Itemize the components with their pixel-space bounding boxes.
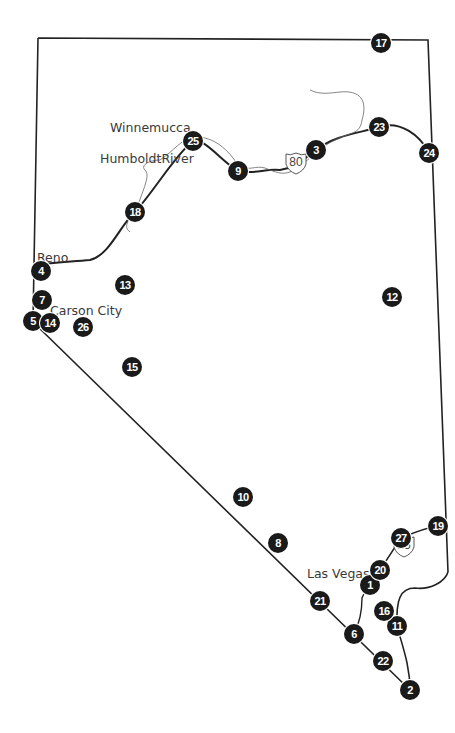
map-marker-19[interactable]: 19 (428, 516, 448, 536)
map-marker-13[interactable]: 13 (115, 275, 135, 295)
map-marker-23[interactable]: 23 (369, 117, 389, 137)
map-marker-12[interactable]: 12 (382, 287, 402, 307)
map-marker-27[interactable]: 27 (391, 528, 411, 548)
label-humboldt-river: HumboldtRiver (100, 151, 194, 166)
map-marker-2[interactable]: 2 (400, 680, 420, 700)
interstate-80-road (33, 125, 429, 266)
map-marker-22[interactable]: 22 (373, 651, 393, 671)
map-marker-20[interactable]: 20 (370, 560, 390, 580)
map-marker-26[interactable]: 26 (73, 317, 93, 337)
map-marker-10[interactable]: 10 (233, 487, 253, 507)
map-marker-9[interactable]: 9 (228, 161, 248, 181)
map-marker-18[interactable]: 18 (125, 202, 145, 222)
state-border (33, 38, 448, 690)
map-marker-15[interactable]: 15 (122, 357, 142, 377)
map-marker-24[interactable]: 24 (419, 143, 439, 163)
map-marker-8[interactable]: 8 (268, 533, 288, 553)
map-marker-4[interactable]: 4 (31, 261, 51, 281)
map-marker-16[interactable]: 16 (374, 601, 394, 621)
map-marker-6[interactable]: 6 (344, 624, 364, 644)
map-marker-7[interactable]: 7 (32, 290, 52, 310)
map-marker-3[interactable]: 3 (306, 140, 326, 160)
label-las-vegas: Las Vegas (307, 566, 370, 581)
map-marker-21[interactable]: 21 (310, 591, 330, 611)
label-carson-city: Carson City (50, 303, 122, 318)
interstate-80-shield-icon: 80 (284, 151, 308, 175)
map-marker-17[interactable]: 17 (371, 33, 391, 53)
map-marker-25[interactable]: 25 (183, 131, 203, 151)
label-winnemucca: Winnemucca (110, 120, 191, 135)
map-marker-14[interactable]: 14 (40, 313, 60, 333)
